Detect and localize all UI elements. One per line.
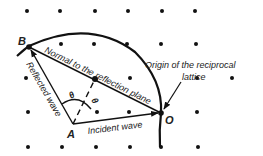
origin-label-line2: lattice: [182, 72, 206, 82]
ewald-diagram: B A O θ θ Normal to the reflection plane…: [0, 0, 263, 156]
label-o: O: [165, 114, 174, 126]
reflected-wave-label: Reflected wave: [24, 60, 63, 118]
label-a: A: [66, 128, 75, 140]
theta-angle-arc: [62, 100, 91, 109]
origin-label-line1: Origin of the reciprocal: [145, 60, 237, 70]
label-b: B: [18, 35, 26, 47]
lattice-point-below-o: [159, 145, 163, 149]
point-b: [26, 44, 32, 50]
incident-wave-label: Incident wave: [87, 119, 143, 136]
label-theta-2: θ: [89, 96, 100, 105]
origin-pointer-arrow: [164, 82, 181, 109]
point-o: [158, 110, 164, 116]
